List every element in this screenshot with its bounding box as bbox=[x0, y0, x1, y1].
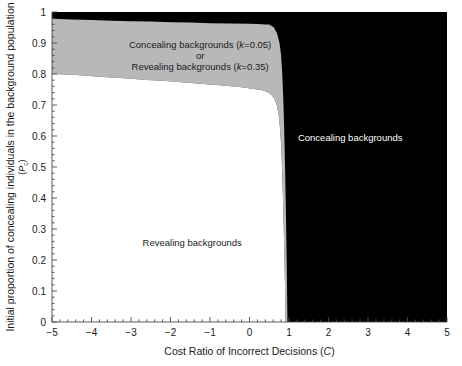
y-tick-label: 0.6 bbox=[32, 131, 46, 142]
x-tick-label: 1 bbox=[286, 327, 292, 338]
x-tick-label: −3 bbox=[125, 327, 137, 338]
y-tick-label: 0.5 bbox=[32, 162, 46, 173]
x-tick-label: −2 bbox=[165, 327, 177, 338]
x-axis-tick-labels: −5−4−3−2−1012345 bbox=[46, 327, 450, 338]
x-tick-label: 3 bbox=[365, 327, 371, 338]
x-tick-label: −1 bbox=[204, 327, 216, 338]
y-axis-title: Initial proportion of concealing individ… bbox=[4, 2, 16, 331]
y-tick-label: 0 bbox=[40, 317, 46, 328]
annotation-revealing-backgrounds: Revealing backgrounds bbox=[143, 237, 243, 248]
y-tick-label: 0.4 bbox=[32, 193, 46, 204]
x-tick-label: −5 bbox=[46, 327, 58, 338]
y-axis-subscript-label: (Pc) bbox=[17, 159, 29, 174]
y-tick-label: 0.9 bbox=[32, 38, 46, 49]
annotation-mixed-line2: or bbox=[196, 50, 204, 61]
y-tick-label: 0.2 bbox=[32, 255, 46, 266]
x-tick-label: 0 bbox=[247, 327, 253, 338]
y-axis-tick-labels: 00.10.20.30.40.50.60.70.80.91 bbox=[32, 7, 46, 328]
y-tick-label: 0.3 bbox=[32, 224, 46, 235]
region-revealing-backgrounds bbox=[52, 74, 286, 322]
x-tick-label: 4 bbox=[405, 327, 411, 338]
annotation-mixed-line1: Concealing backgrounds (k=0.05) bbox=[129, 39, 271, 50]
y-tick-label: 1 bbox=[40, 7, 46, 18]
phase-diagram-plot: Concealing backgrounds (k=0.05) or Revea… bbox=[0, 0, 462, 366]
x-axis-title: Cost Ratio of Incorrect Decisions (C) bbox=[164, 345, 334, 357]
annotation-mixed-line3: Revealing backgrounds (k=0.35) bbox=[132, 61, 269, 72]
y-tick-label: 0.1 bbox=[32, 286, 46, 297]
annotation-concealing-backgrounds: Concealing backgrounds bbox=[298, 132, 403, 143]
x-tick-label: 2 bbox=[326, 327, 332, 338]
y-tick-label: 0.8 bbox=[32, 69, 46, 80]
x-tick-label: −4 bbox=[86, 327, 98, 338]
plot-regions bbox=[52, 12, 447, 322]
x-tick-label: 5 bbox=[444, 327, 450, 338]
phase-diagram-figure: Concealing backgrounds (k=0.05) or Revea… bbox=[0, 0, 462, 366]
y-tick-label: 0.7 bbox=[32, 100, 46, 111]
